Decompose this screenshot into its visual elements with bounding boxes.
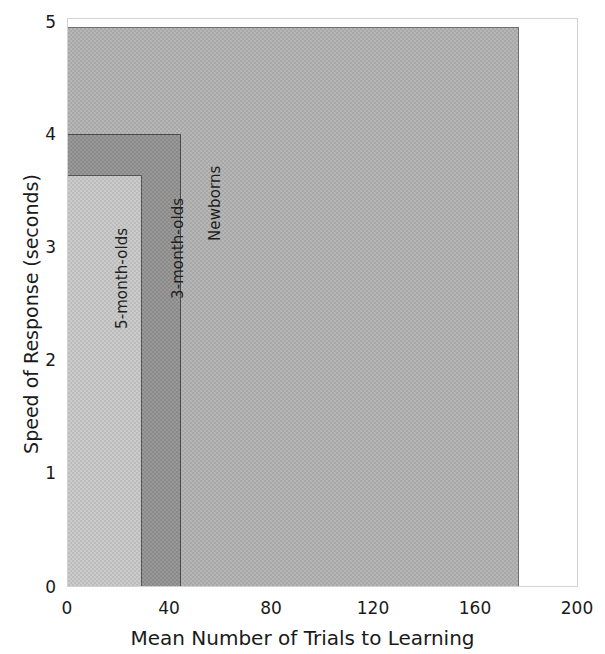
y-tick-5: 5 bbox=[22, 14, 56, 31]
x-tick-80: 80 bbox=[241, 600, 301, 617]
y-axis-tick-labels: 5 4 3 2 1 0 bbox=[12, 0, 56, 654]
y-tick-1: 1 bbox=[22, 465, 56, 482]
y-tick-2: 2 bbox=[22, 352, 56, 369]
x-tick-40: 40 bbox=[139, 600, 199, 617]
bar-label-5-month-olds: 5-month-olds bbox=[113, 228, 131, 329]
x-tick-120: 120 bbox=[343, 600, 403, 617]
chart-figure: Speed of Response (seconds) 5 4 3 2 1 0 … bbox=[0, 0, 605, 654]
x-tick-160: 160 bbox=[445, 600, 505, 617]
x-tick-0: 0 bbox=[37, 600, 97, 617]
y-tick-4: 4 bbox=[22, 126, 56, 143]
bar-label-newborns: Newborns bbox=[206, 166, 224, 241]
y-tick-0: 0 bbox=[22, 579, 56, 596]
plot-area: 5-month-olds 3-month-olds Newborns bbox=[67, 18, 578, 587]
x-tick-200: 200 bbox=[547, 600, 605, 617]
bar-label-3-month-olds: 3-month-olds bbox=[169, 198, 187, 299]
y-tick-3: 3 bbox=[22, 239, 56, 256]
x-axis-tick-labels: 0 40 80 120 160 200 bbox=[0, 600, 605, 626]
x-axis-title: Mean Number of Trials to Learning bbox=[0, 626, 605, 650]
